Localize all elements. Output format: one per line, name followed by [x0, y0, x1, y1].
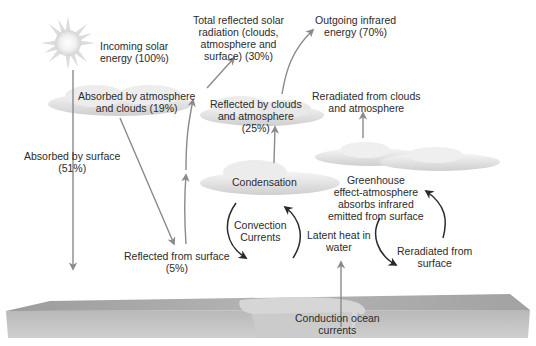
arrow-to-surface: [120, 118, 174, 244]
label-reradiated-surface: Reradiated from surface: [397, 245, 472, 269]
arrow-greenhouse-down: [376, 218, 396, 265]
label-incoming-solar: Incoming solar energy (100%): [100, 40, 169, 64]
arrow-reflected-surface-1: [185, 175, 187, 244]
energy-balance-diagram: Incoming solar energy (100%) Absorbed by…: [0, 0, 536, 346]
label-reflected-surface: Reflected from surface (5%): [124, 250, 230, 274]
arrow-convection-up: [285, 207, 300, 258]
earth-surface: [6, 294, 530, 338]
cloud-greenhouse: [315, 142, 500, 171]
label-absorbed-atmosphere: Absorbed by atmosphere and clouds (19%): [78, 90, 195, 114]
label-total-reflected: Total reflected solar radiation (clouds,…: [193, 14, 284, 62]
label-latent-heat: Latent heat in water: [307, 229, 371, 253]
arrow-outgoing-ir: [282, 30, 313, 94]
arrow-total-reflected: [207, 58, 234, 88]
label-absorbed-surface: Absorbed by surface (51%): [24, 150, 120, 174]
arrow-reradiated-surface-up: [426, 191, 445, 238]
label-reradiated-clouds: Reradiated from clouds and atmosphere: [312, 90, 421, 114]
label-conduction: Conduction ocean currents: [295, 312, 380, 336]
label-condensation: Condensation: [232, 176, 297, 188]
label-convection: Convection Currents: [234, 219, 287, 243]
sun-icon: [41, 16, 95, 70]
label-reflected-clouds: Reflected by clouds and atmosphere (25%): [210, 98, 302, 134]
label-greenhouse: Greenhouse effect-atmosphere absorbs inf…: [328, 174, 424, 222]
label-outgoing-infrared: Outgoing infrared energy (70%): [315, 14, 396, 38]
